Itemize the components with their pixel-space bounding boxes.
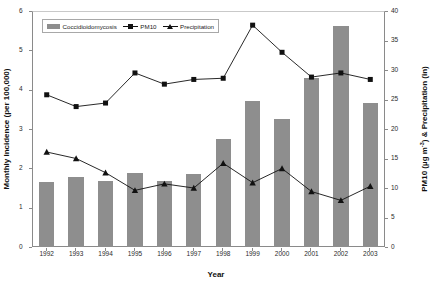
y-axis-right-tick-20: 20 xyxy=(391,126,398,133)
right-title-part-a: PM10 (µg m xyxy=(420,147,429,192)
chart-container: Monthly Incidence (per 100,000) PM10 (µg… xyxy=(0,0,432,289)
bar-1994 xyxy=(98,181,113,247)
x-axis-tick-1994: 1994 xyxy=(98,250,112,257)
bar-1995 xyxy=(127,173,142,247)
bar-2002 xyxy=(333,26,348,247)
y-axis-right-tick-35: 35 xyxy=(391,37,398,44)
chart-legend: Coccidioidomycosis PM10 Precipitation xyxy=(42,19,219,33)
x-axis-tickmark xyxy=(369,248,370,251)
y-axis-right-title-wrap: PM10 (µg m-3) & Precipitation (in) xyxy=(416,0,432,258)
x-axis-tickmark xyxy=(252,248,253,251)
y-axis-left-tick-5: 5 xyxy=(19,47,23,54)
x-axis-tickmark xyxy=(134,248,135,251)
y-axis-left-tickmark xyxy=(29,168,32,169)
y-axis-right-tickmark xyxy=(385,247,388,248)
bar-1998 xyxy=(216,139,231,247)
bar-1999 xyxy=(245,101,260,247)
x-axis-tickmark xyxy=(281,248,282,251)
x-axis-tick-2003: 2003 xyxy=(363,250,377,257)
x-axis-tick-1998: 1998 xyxy=(216,250,230,257)
y-axis-right-tickmark xyxy=(385,11,388,12)
x-axis-tick-1995: 1995 xyxy=(128,250,142,257)
bar-2001 xyxy=(304,78,319,247)
legend-item-coccidioidomycosis[interactable]: Coccidioidomycosis xyxy=(47,23,117,30)
y-axis-right-tick-10: 10 xyxy=(391,185,398,192)
right-title-exponent: -3 xyxy=(419,142,425,147)
y-axis-right-tick-30: 30 xyxy=(391,67,398,74)
legend-item-pm10[interactable]: PM10 xyxy=(123,23,157,30)
bar-1996 xyxy=(157,181,172,247)
y-axis-left-tickmark xyxy=(29,11,32,12)
bar-2000 xyxy=(274,119,289,247)
bar-2003 xyxy=(363,103,378,247)
x-axis-title: Year xyxy=(0,270,432,279)
y-axis-right-tick-25: 25 xyxy=(391,96,398,103)
y-axis-right-tickmark xyxy=(385,159,388,160)
y-axis-left-tickmark xyxy=(29,247,32,248)
x-axis-tickmark xyxy=(340,248,341,251)
y-axis-right-tickmark xyxy=(385,100,388,101)
x-axis-tickmark xyxy=(75,248,76,251)
x-axis-tick-1992: 1992 xyxy=(39,250,53,257)
x-axis-tick-1993: 1993 xyxy=(69,250,83,257)
x-axis-tickmark xyxy=(163,248,164,251)
legend-item-precipitation[interactable]: Precipitation xyxy=(163,23,215,30)
y-axis-left-tickmark xyxy=(29,90,32,91)
y-axis-left-tick-6: 6 xyxy=(19,8,23,15)
y-axis-left-tick-1: 1 xyxy=(19,204,23,211)
y-axis-right-title: PM10 (µg m-3) & Precipitation (in) xyxy=(419,66,430,192)
right-title-part-b: ) & Precipitation (in) xyxy=(420,66,429,142)
legend-label-coccidioidomycosis: Coccidioidomycosis xyxy=(63,23,117,30)
y-axis-left-tick-2: 2 xyxy=(19,165,23,172)
y-axis-right-tick-15: 15 xyxy=(391,155,398,162)
plot-area xyxy=(32,11,385,247)
y-axis-left-tick-0: 0 xyxy=(19,244,23,251)
y-axis-right-tickmark xyxy=(385,41,388,42)
x-axis-tickmark xyxy=(193,248,194,251)
legend-label-precipitation: Precipitation xyxy=(180,23,214,30)
y-axis-right-tick-40: 40 xyxy=(391,8,398,15)
x-axis-tickmark xyxy=(105,248,106,251)
y-axis-left-title-wrap: Monthly Incidence (per 100,000) xyxy=(0,0,13,258)
x-axis-tickmark xyxy=(310,248,311,251)
y-axis-left-title: Monthly Incidence (per 100,000) xyxy=(2,69,11,190)
x-axis-tick-2001: 2001 xyxy=(304,250,318,257)
bar-1993 xyxy=(68,177,83,247)
y-axis-left-tick-4: 4 xyxy=(19,86,23,93)
x-axis-tick-2000: 2000 xyxy=(275,250,289,257)
x-axis-tickmark xyxy=(222,248,223,251)
y-axis-right-tick-5: 5 xyxy=(391,214,395,221)
y-axis-left-tickmark xyxy=(29,208,32,209)
y-axis-right-tick-0: 0 xyxy=(391,244,395,251)
x-axis-tickmark xyxy=(46,248,47,251)
y-axis-left-tickmark xyxy=(29,129,32,130)
y-axis-right-tickmark xyxy=(385,129,388,130)
x-axis-tick-1997: 1997 xyxy=(187,250,201,257)
y-axis-left-tickmark xyxy=(29,50,32,51)
bar-1992 xyxy=(39,182,54,247)
line-triangle-marker-icon xyxy=(163,23,178,29)
y-axis-right-tickmark xyxy=(385,70,388,71)
y-axis-right-tickmark xyxy=(385,188,388,189)
legend-label-pm10: PM10 xyxy=(140,23,156,30)
x-axis-tick-1999: 1999 xyxy=(245,250,259,257)
bar-swatch-icon xyxy=(47,24,60,29)
bar-1997 xyxy=(186,174,201,247)
y-axis-left-tick-3: 3 xyxy=(19,126,23,133)
y-axis-right-tickmark xyxy=(385,218,388,219)
x-axis-tick-1996: 1996 xyxy=(157,250,171,257)
x-axis-tick-2002: 2002 xyxy=(334,250,348,257)
line-square-marker-icon xyxy=(123,23,138,29)
